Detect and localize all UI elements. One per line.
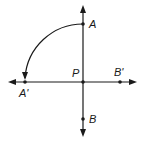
label-A: A [88,18,96,30]
up-arrow-icon [80,5,86,13]
label-P: P [72,67,80,79]
left-arrow-icon [8,79,16,85]
down-arrow-icon [80,129,86,137]
point-B [81,117,85,121]
point-P [81,80,85,84]
point-A [81,22,85,26]
label-A-prime: A' [18,87,29,99]
point-B-prime [118,80,122,84]
point-A-prime [23,80,27,84]
rotation-diagram: A A' B' B P [0,0,145,144]
arc-arrowhead-icon [22,72,28,80]
right-arrow-icon [129,79,137,85]
label-B-prime: B' [114,66,124,78]
label-B: B [89,113,96,125]
